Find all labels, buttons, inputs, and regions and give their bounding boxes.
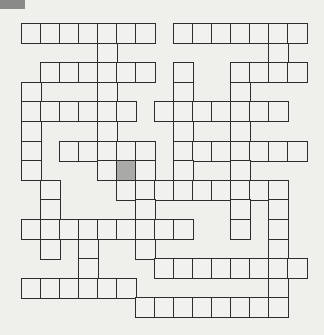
grid-cell[interactable]	[40, 62, 61, 83]
grid-cell[interactable]	[154, 180, 175, 201]
grid-cell[interactable]	[116, 141, 137, 162]
grid-cell[interactable]	[230, 199, 251, 220]
grid-cell[interactable]	[59, 219, 80, 240]
grid-cell[interactable]	[268, 219, 289, 240]
grid-cell[interactable]	[268, 141, 289, 162]
grid-cell[interactable]	[268, 258, 289, 279]
grid-cell[interactable]	[97, 82, 118, 103]
grid-cell[interactable]	[116, 62, 137, 83]
grid-cell[interactable]	[78, 62, 99, 83]
grid-cell[interactable]	[192, 258, 213, 279]
grid-cell[interactable]	[268, 297, 289, 318]
grid-cell[interactable]	[211, 297, 232, 318]
grid-cell[interactable]	[78, 258, 99, 279]
grid-cell[interactable]	[78, 141, 99, 162]
grid-cell[interactable]	[268, 239, 289, 260]
grid-cell[interactable]	[230, 160, 251, 181]
grid-cell[interactable]	[192, 297, 213, 318]
grid-cell[interactable]	[21, 23, 42, 44]
grid-cell[interactable]	[154, 101, 175, 122]
grid-cell[interactable]	[249, 180, 270, 201]
grid-cell[interactable]	[211, 141, 232, 162]
grid-cell[interactable]	[173, 180, 194, 201]
grid-cell[interactable]	[116, 101, 137, 122]
grid-cell[interactable]	[21, 278, 42, 299]
grid-cell[interactable]	[154, 219, 175, 240]
grid-cell[interactable]	[249, 23, 270, 44]
grid-cell[interactable]	[192, 180, 213, 201]
grid-cell[interactable]	[40, 101, 61, 122]
grid-cell[interactable]	[135, 141, 156, 162]
grid-cell[interactable]	[173, 82, 194, 103]
grid-cell[interactable]	[78, 239, 99, 260]
grid-cell[interactable]	[116, 180, 137, 201]
grid-cell[interactable]	[78, 101, 99, 122]
grid-cell[interactable]	[40, 199, 61, 220]
grid-cell[interactable]	[249, 101, 270, 122]
grid-cell[interactable]	[40, 219, 61, 240]
grid-cell[interactable]	[192, 141, 213, 162]
grid-cell[interactable]	[268, 43, 289, 64]
grid-cell[interactable]	[249, 258, 270, 279]
grid-cell[interactable]	[211, 23, 232, 44]
grid-cell[interactable]	[268, 278, 289, 299]
grid-cell[interactable]	[59, 278, 80, 299]
grid-cell[interactable]	[173, 101, 194, 122]
grid-cell[interactable]	[154, 258, 175, 279]
grid-cell[interactable]	[116, 278, 137, 299]
grid-cell[interactable]	[230, 62, 251, 83]
grid-cell[interactable]	[268, 62, 289, 83]
grid-cell[interactable]	[173, 121, 194, 142]
grid-cell[interactable]	[173, 141, 194, 162]
grid-cell[interactable]	[40, 239, 61, 260]
grid-cell[interactable]	[230, 141, 251, 162]
grid-cell[interactable]	[135, 23, 156, 44]
grid-cell[interactable]	[97, 62, 118, 83]
grid-cell[interactable]	[135, 160, 156, 181]
grid-cell[interactable]	[211, 258, 232, 279]
grid-cell[interactable]	[249, 297, 270, 318]
grid-cell[interactable]	[249, 141, 270, 162]
shaded-grid-cell[interactable]	[116, 160, 137, 181]
grid-cell[interactable]	[59, 62, 80, 83]
grid-cell[interactable]	[116, 219, 137, 240]
grid-cell[interactable]	[211, 101, 232, 122]
grid-cell[interactable]	[135, 180, 156, 201]
grid-cell[interactable]	[135, 199, 156, 220]
grid-cell[interactable]	[230, 101, 251, 122]
grid-cell[interactable]	[21, 101, 42, 122]
grid-cell[interactable]	[249, 62, 270, 83]
grid-cell[interactable]	[97, 278, 118, 299]
grid-cell[interactable]	[287, 62, 308, 83]
grid-cell[interactable]	[287, 23, 308, 44]
grid-cell[interactable]	[230, 23, 251, 44]
grid-cell[interactable]	[173, 62, 194, 83]
grid-cell[interactable]	[97, 43, 118, 64]
grid-cell[interactable]	[21, 141, 42, 162]
grid-cell[interactable]	[192, 23, 213, 44]
grid-cell[interactable]	[97, 101, 118, 122]
grid-cell[interactable]	[230, 180, 251, 201]
grid-cell[interactable]	[287, 258, 308, 279]
grid-cell[interactable]	[192, 101, 213, 122]
grid-cell[interactable]	[59, 23, 80, 44]
grid-cell[interactable]	[59, 101, 80, 122]
grid-cell[interactable]	[230, 258, 251, 279]
grid-cell[interactable]	[21, 82, 42, 103]
grid-cell[interactable]	[40, 180, 61, 201]
grid-cell[interactable]	[135, 297, 156, 318]
grid-cell[interactable]	[97, 23, 118, 44]
grid-cell[interactable]	[40, 23, 61, 44]
grid-cell[interactable]	[78, 23, 99, 44]
grid-cell[interactable]	[116, 23, 137, 44]
grid-cell[interactable]	[230, 219, 251, 240]
grid-cell[interactable]	[230, 121, 251, 142]
grid-cell[interactable]	[230, 297, 251, 318]
grid-cell[interactable]	[173, 258, 194, 279]
grid-cell[interactable]	[173, 23, 194, 44]
grid-cell[interactable]	[211, 180, 232, 201]
grid-cell[interactable]	[268, 101, 289, 122]
grid-cell[interactable]	[21, 121, 42, 142]
grid-cell[interactable]	[268, 180, 289, 201]
grid-cell[interactable]	[97, 219, 118, 240]
